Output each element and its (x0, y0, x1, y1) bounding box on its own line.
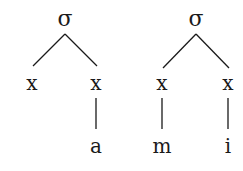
timing-slot-x: x (222, 71, 234, 95)
root-sigma: σ (57, 6, 72, 31)
tree-right: σ x x m i (153, 6, 235, 158)
segment: m (153, 134, 172, 158)
segment: i (225, 134, 231, 158)
branch-line (163, 34, 196, 68)
root-sigma: σ (188, 6, 203, 31)
segment: a (90, 134, 102, 158)
tree-left: σ x x a (26, 6, 102, 158)
timing-slot-x: x (90, 71, 102, 95)
syllable-diagram: σ x x a σ x x m i (0, 0, 243, 171)
timing-slot-x: x (26, 71, 38, 95)
branch-line (33, 34, 65, 66)
branch-line (196, 34, 229, 68)
branch-line (65, 34, 97, 66)
timing-slot-x: x (156, 71, 168, 95)
